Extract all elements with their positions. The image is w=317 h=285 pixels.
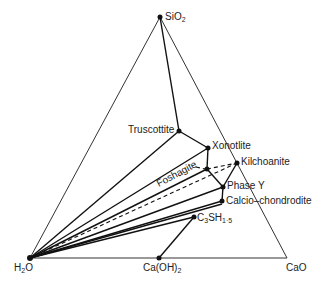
ternary-diagram <box>0 0 317 285</box>
point-c3sh <box>192 215 197 220</box>
label-sio2: SiO2 <box>165 12 186 23</box>
point-phase-y <box>221 185 226 190</box>
label-calcio-chondrodite: Calcio–chondrodite <box>226 196 312 206</box>
label-kilchoanite: Kilchoanite <box>241 157 290 167</box>
point-sio2 <box>158 15 163 20</box>
label-xonotlite: Xonotlite <box>212 141 251 151</box>
label-h2o: H2O <box>14 263 33 274</box>
point-xonotlite <box>206 146 211 151</box>
point-truscottite <box>177 129 182 134</box>
dashed-tie-lines <box>30 163 237 258</box>
point-calcio-chondrodite <box>220 199 225 204</box>
label-phase-y: Phase Y <box>227 181 265 191</box>
point-h2o <box>27 255 33 261</box>
label-caoh2: Ca(OH)2 <box>143 263 181 274</box>
label-c3sh: C3SH1·5 <box>197 213 232 224</box>
phase-points <box>27 15 240 262</box>
label-cao: CaO <box>286 263 307 273</box>
label-truscottite: Truscottite <box>128 125 174 135</box>
point-caoh2 <box>157 256 162 261</box>
point-kilchoanite <box>235 161 240 166</box>
point-foshagite <box>205 167 210 172</box>
